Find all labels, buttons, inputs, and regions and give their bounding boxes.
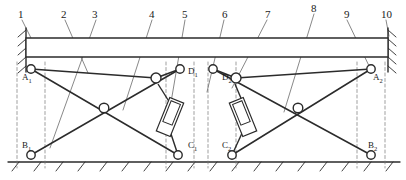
diagram-canvas: [0, 0, 406, 180]
right-wall-hatch: [388, 48, 396, 55]
left-wall-hatch: [18, 48, 26, 55]
joint-label-D1: D1: [188, 66, 198, 78]
pivot-joint-mid1: [99, 103, 109, 113]
ground-hatch: [210, 162, 217, 171]
callout-number-6: 6: [222, 8, 228, 20]
ground-hatch: [342, 162, 349, 171]
left-wall-hatch: [18, 57, 26, 64]
pivot-joint-knee1: [151, 73, 161, 83]
pivot-joint-C2: [228, 151, 236, 159]
joint-label-D2: D2: [222, 72, 232, 84]
callout-number-8: 8: [311, 2, 317, 14]
joint-label-subscript: 1: [194, 145, 197, 152]
ground-hatch: [34, 162, 41, 171]
ground-hatch: [364, 162, 371, 171]
right-wall-hatch: [388, 39, 396, 46]
ground-hatch: [320, 162, 327, 171]
joint-label-C1: C1: [188, 140, 197, 152]
pivot-joint-D2: [209, 65, 217, 73]
ground-hatch: [254, 162, 261, 171]
callout-leader-4: [123, 20, 152, 110]
callout-number-2: 2: [61, 8, 67, 20]
callout-number-9: 9: [344, 8, 350, 20]
ground-hatch: [166, 162, 173, 171]
ground-hatch: [12, 162, 19, 171]
ground-hatch: [144, 162, 151, 171]
cylinder-body-right: [229, 98, 256, 137]
scissor-link-right-2: [236, 69, 371, 78]
pivot-joint-C1: [174, 151, 182, 159]
scissor-lift-diagram: 12345678910 A1B1C1D1D2C2A2B2: [0, 0, 406, 180]
joint-label-A2: A2: [373, 72, 383, 84]
callout-leader-8: [284, 14, 314, 112]
joint-label-subscript: 2: [374, 145, 377, 152]
joint-label-subscript: 2: [229, 77, 232, 84]
joint-label-subscript: 1: [195, 71, 198, 78]
joint-label-subscript: 2: [228, 145, 231, 152]
ground-hatch: [276, 162, 283, 171]
ground-hatch: [232, 162, 239, 171]
lift-platform-beam: [26, 38, 388, 57]
pivot-joint-knee2: [231, 73, 241, 83]
right-wall-hatch: [388, 57, 396, 64]
pivot-joint-B1: [27, 151, 35, 159]
cylinder-body-left: [156, 98, 183, 137]
joint-label-B2: B2: [368, 140, 377, 152]
right-wall-hatch: [388, 66, 396, 73]
joint-label-B1: B1: [22, 140, 31, 152]
scissor-link-left-2: [31, 69, 156, 78]
pivot-joint-mid2: [293, 103, 303, 113]
hydraulic-cylinder-right: [229, 84, 256, 155]
joint-label-A1: A1: [22, 72, 32, 84]
ground-hatch: [298, 162, 305, 171]
ground-hatch: [56, 162, 63, 171]
left-wall-hatch: [18, 39, 26, 46]
joint-label-subscript: 2: [380, 77, 383, 84]
left-wall-hatch: [18, 30, 26, 37]
pivot-joint-B2: [367, 151, 375, 159]
ground-hatch: [78, 162, 85, 171]
joint-label-subscript: 1: [28, 145, 31, 152]
joint-label-subscript: 1: [29, 77, 32, 84]
pivot-joint-D1: [176, 65, 184, 73]
callout-number-5: 5: [182, 8, 188, 20]
ground-hatch: [122, 162, 129, 171]
callout-number-10: 10: [381, 8, 392, 20]
callout-number-4: 4: [149, 8, 155, 20]
callout-number-7: 7: [265, 8, 271, 20]
callout-number-3: 3: [92, 8, 98, 20]
callout-number-1: 1: [18, 8, 24, 20]
ground-hatch: [100, 162, 107, 171]
joint-label-C2: C2: [222, 140, 231, 152]
ground-hatch: [386, 162, 393, 171]
